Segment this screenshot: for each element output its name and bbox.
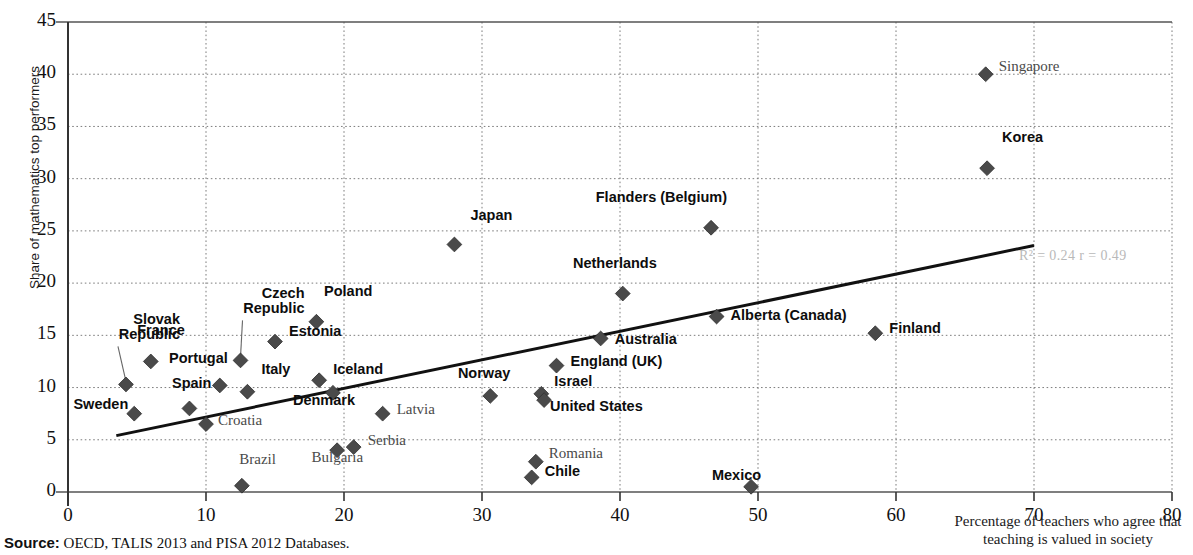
x-axis-tick-label: 20 bbox=[322, 504, 366, 526]
y-axis-tick-label: 30 bbox=[16, 166, 56, 188]
data-point-label: Brazil bbox=[239, 452, 276, 467]
data-point-marker[interactable] bbox=[127, 406, 142, 421]
x-axis-tick-label: 40 bbox=[598, 504, 642, 526]
x-axis-tick-label: 30 bbox=[460, 504, 504, 526]
data-point-marker[interactable] bbox=[234, 478, 249, 493]
data-point-label: England (UK) bbox=[571, 354, 663, 369]
x-axis-tick-label: 60 bbox=[874, 504, 918, 526]
leader-line bbox=[118, 346, 126, 381]
x-axis-tick-label: 10 bbox=[184, 504, 228, 526]
data-point-marker[interactable] bbox=[312, 373, 327, 388]
data-point-label: Japan bbox=[470, 208, 512, 223]
data-point-marker[interactable] bbox=[240, 384, 255, 399]
data-point-label: United States bbox=[550, 399, 643, 414]
y-axis-tick-label: 10 bbox=[16, 375, 56, 397]
source-note: Source: OECD, TALIS 2013 and PISA 2012 D… bbox=[4, 534, 350, 552]
data-point-label: Korea bbox=[1002, 130, 1043, 145]
leader-line bbox=[241, 320, 243, 357]
data-point-marker[interactable] bbox=[119, 377, 134, 392]
data-point-label: Spain bbox=[172, 376, 211, 391]
source-text: OECD, TALIS 2013 and PISA 2012 Databases… bbox=[60, 535, 350, 551]
data-point-label: Alberta (Canada) bbox=[731, 308, 847, 323]
y-axis-tick-label: 45 bbox=[16, 9, 56, 31]
y-axis-tick-label: 35 bbox=[16, 113, 56, 135]
data-point-marker[interactable] bbox=[524, 470, 539, 485]
data-point-marker[interactable] bbox=[549, 358, 564, 373]
data-point-marker[interactable] bbox=[182, 401, 197, 416]
data-point-label: Italy bbox=[261, 362, 290, 377]
data-point-label: Singapore bbox=[999, 59, 1060, 74]
data-point-marker[interactable] bbox=[212, 378, 227, 393]
data-point-marker[interactable] bbox=[528, 454, 543, 469]
data-point-label: Mexico bbox=[712, 468, 761, 483]
y-axis-tick-label: 20 bbox=[16, 270, 56, 292]
y-axis-tick-label: 5 bbox=[16, 427, 56, 449]
data-point-marker[interactable] bbox=[143, 354, 158, 369]
y-axis-tick-label: 25 bbox=[16, 218, 56, 240]
y-axis-tick-label: 40 bbox=[16, 61, 56, 83]
y-axis-tick-label: 15 bbox=[16, 322, 56, 344]
data-point-label: Netherlands bbox=[573, 256, 657, 271]
data-point-label: Israel bbox=[554, 374, 592, 389]
data-point-label: France bbox=[137, 323, 185, 338]
data-point-label: Estonia bbox=[289, 324, 341, 339]
data-point-label: Poland bbox=[324, 284, 372, 299]
data-point-label: Sweden bbox=[73, 397, 128, 412]
data-point-label: Bulgaria bbox=[311, 450, 363, 465]
data-point-marker[interactable] bbox=[980, 161, 995, 176]
data-point-label: Chile bbox=[545, 464, 580, 479]
data-point-label: CzechRepublic bbox=[243, 286, 304, 315]
data-point-marker[interactable] bbox=[704, 220, 719, 235]
data-point-label: Iceland bbox=[333, 362, 383, 377]
data-point-label: Croatia bbox=[218, 413, 262, 428]
source-prefix: Source: bbox=[4, 534, 60, 551]
data-point-marker[interactable] bbox=[268, 334, 283, 349]
x-axis-tick-label: 0 bbox=[46, 504, 90, 526]
data-point-label: Finland bbox=[889, 321, 941, 336]
data-point-marker[interactable] bbox=[868, 326, 883, 341]
data-point-label: Denmark bbox=[293, 393, 355, 408]
x-axis-title: Percentage of teachers who agree that te… bbox=[947, 512, 1189, 549]
data-point-label: Australia bbox=[615, 332, 677, 347]
data-point-label: Portugal bbox=[169, 351, 228, 366]
data-point-marker[interactable] bbox=[483, 389, 498, 404]
data-point-label: Latvia bbox=[397, 402, 435, 417]
y-axis-tick-label: 0 bbox=[16, 479, 56, 501]
data-point-label: Serbia bbox=[368, 433, 406, 448]
data-point-marker[interactable] bbox=[615, 286, 630, 301]
data-point-label: Flanders (Belgium) bbox=[596, 190, 727, 205]
data-point-marker[interactable] bbox=[375, 406, 390, 421]
data-point-label: Romania bbox=[549, 446, 603, 461]
scatter-plot-canvas bbox=[0, 0, 1193, 555]
data-point-marker[interactable] bbox=[978, 67, 993, 82]
x-axis-tick-label: 50 bbox=[736, 504, 780, 526]
r-squared-annotation: R² = 0.24 r = 0.49 bbox=[1019, 248, 1127, 264]
data-point-marker[interactable] bbox=[233, 353, 248, 368]
data-point-label: Norway bbox=[458, 366, 510, 381]
chart-stage: Share of mathematics top performers Swed… bbox=[0, 0, 1193, 555]
data-point-marker[interactable] bbox=[447, 237, 462, 252]
